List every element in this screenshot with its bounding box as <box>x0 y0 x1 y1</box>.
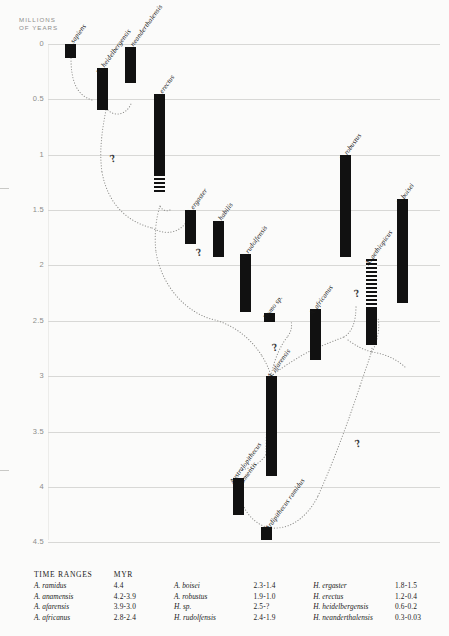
left-edge-mark <box>0 188 9 189</box>
axis-tick: 1 <box>10 150 44 159</box>
uncertainty-marker: ? <box>271 341 279 354</box>
legend-value: 1.9-1.0 <box>253 592 302 603</box>
table-row: A. afarensis 3.9-3.0 H. sp. 2.5-? H. hei… <box>34 602 444 613</box>
axis-tick: 3.5 <box>10 427 44 436</box>
lineage-connectors <box>0 0 449 560</box>
uncertainty-marker: ? <box>108 151 117 164</box>
legend-heading-blank-2 <box>174 570 253 581</box>
legend-spacer <box>163 581 174 592</box>
legend-species: A. africanus <box>34 613 114 624</box>
left-edge-mark <box>0 470 9 471</box>
legend-spacer <box>303 613 314 624</box>
legend-value: 1.2-0.4 <box>395 592 444 603</box>
legend-value: 2.4-1.9 <box>253 613 302 624</box>
legend-heading-blank-3 <box>253 570 302 581</box>
legend-species: A. robustus <box>174 592 253 603</box>
gridline <box>48 487 440 488</box>
range-bar-a-aethiopicus-uncertain[interactable] <box>366 259 377 307</box>
taxon-label-a-africanus: A. africanus <box>308 284 335 317</box>
axis-tick: 2 <box>10 260 44 269</box>
axis-tick: 1.5 <box>10 205 44 214</box>
axis-title-line1: MILLIONS <box>19 16 58 24</box>
table-row: A. ramidus 4.4 A. boisei 2.3-1.4 H. erga… <box>34 581 444 592</box>
axis-tick: 4.5 <box>10 537 44 546</box>
gridline <box>48 44 440 45</box>
legend-value: 4.4 <box>114 581 164 592</box>
legend-spacer <box>303 570 314 581</box>
gridline <box>48 542 440 543</box>
legend-heading-blank-4 <box>313 570 395 581</box>
taxon-label-h-ergaster: H. ergaster <box>184 187 210 218</box>
legend-spacer <box>303 581 314 592</box>
legend-species: A. anamensis <box>34 592 114 603</box>
table-row: A. anamensis 4.2-3.9 A. robustus 1.9-1.0… <box>34 592 444 603</box>
legend-species: H. heidelbergensis <box>313 602 395 613</box>
legend-value: 2.5-? <box>253 602 302 613</box>
range-bar-h-rudolfensis[interactable] <box>240 254 251 312</box>
legend-spacer <box>303 592 314 603</box>
legend-species: A. afarensis <box>34 602 114 613</box>
legend-heading-ranges: TIME RANGES <box>34 570 114 581</box>
legend-value: 1.8-1.5 <box>395 581 444 592</box>
legend-spacer <box>303 602 314 613</box>
legend-header-row: TIME RANGES MYR <box>34 570 444 581</box>
gridline <box>48 210 440 211</box>
range-bar-a-aethiopicus[interactable] <box>366 307 377 345</box>
gridline <box>48 376 440 377</box>
legend-species: H. neanderthalensis <box>313 613 395 624</box>
legend-value: 0.3-0.03 <box>395 613 444 624</box>
y-axis-line <box>48 44 49 540</box>
axis-tick: 0.5 <box>10 94 44 103</box>
gridline <box>48 432 440 433</box>
taxon-label-australopithecus-anamensis: Australopithecus anamensis <box>228 441 270 490</box>
legend-table: TIME RANGES MYR A. ramidus 4.4 A. boisei… <box>34 570 444 624</box>
legend-heading-blank-5 <box>395 570 444 581</box>
axis-title: MILLIONS OF YEARS <box>19 16 58 32</box>
legend-value: 0.6-0.2 <box>395 602 444 613</box>
time-range-chart: MILLIONS OF YEARS 0 0.5 1 1.5 2 2.5 3 3.… <box>0 0 449 560</box>
gridline <box>48 155 440 156</box>
legend-species: A. ramidus <box>34 581 114 592</box>
gridline <box>48 321 440 322</box>
legend-spacer <box>163 570 174 581</box>
taxon-label-ardipithecus-ramidus: Ardipithecus ramidus <box>264 477 307 532</box>
legend-value: 2.8-2.4 <box>114 613 164 624</box>
uncertainty-marker: ? <box>353 436 362 449</box>
legend-species: H. ergaster <box>313 581 395 592</box>
legend-time-ranges: TIME RANGES MYR A. ramidus 4.4 A. boisei… <box>34 570 444 624</box>
range-bar-a-boisei[interactable] <box>397 199 408 303</box>
legend-value: 3.9-3.0 <box>114 602 164 613</box>
legend-value: 4.2-3.9 <box>114 592 164 603</box>
legend-species: H. rudolfensis <box>174 613 253 624</box>
axis-tick: 4 <box>10 482 44 491</box>
legend-species: H. sp. <box>174 602 253 613</box>
taxon-label-h-rudolfensis: H. rudolfensis <box>239 224 270 262</box>
legend-value: 2.3-1.4 <box>253 581 302 592</box>
axis-tick: 0 <box>10 39 44 48</box>
axis-tick: 2.5 <box>10 316 44 325</box>
legend-species: A. boisei <box>174 581 253 592</box>
legend-heading-myr: MYR <box>114 570 164 581</box>
range-bar-h-erectus[interactable] <box>154 94 165 174</box>
table-row: A. africanus 2.8-2.4 H. rudolfensis 2.4-… <box>34 613 444 624</box>
legend-species: H. erectus <box>313 592 395 603</box>
uncertainty-marker: ? <box>353 287 361 300</box>
legend-spacer <box>163 613 174 624</box>
range-bar-a-robustus[interactable] <box>340 155 351 257</box>
taxon-label-a-aethiopicus: A. aethiopicus <box>364 229 395 267</box>
legend-spacer <box>163 602 174 613</box>
axis-tick: 3 <box>10 371 44 380</box>
range-bar-a-africanus[interactable] <box>310 309 321 360</box>
range-bar-h-erectus-uncertain[interactable] <box>154 174 165 193</box>
legend-spacer <box>163 592 174 603</box>
axis-title-line2: OF YEARS <box>19 24 58 32</box>
range-bar-a-afarensis[interactable] <box>266 376 277 476</box>
figure-canvas: MILLIONS OF YEARS 0 0.5 1 1.5 2 2.5 3 3.… <box>0 0 449 636</box>
uncertainty-marker: ? <box>194 245 203 258</box>
